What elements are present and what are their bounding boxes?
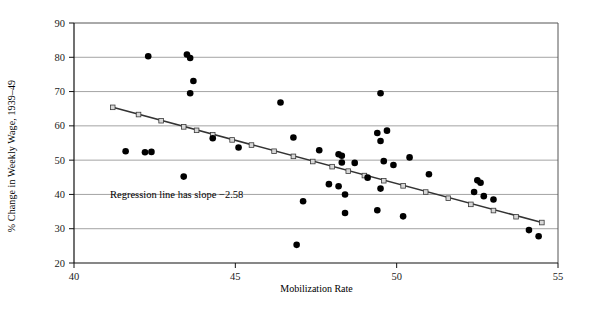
data-point bbox=[342, 191, 349, 198]
data-point bbox=[406, 154, 413, 161]
data-point bbox=[351, 160, 358, 167]
data-point bbox=[364, 174, 371, 181]
data-point bbox=[145, 53, 152, 60]
regression-line-marker bbox=[381, 178, 386, 183]
regression-line-marker bbox=[230, 138, 235, 143]
y-tick-label: 80 bbox=[55, 52, 66, 63]
data-point bbox=[380, 158, 387, 165]
data-point bbox=[187, 55, 194, 62]
regression-line-marker bbox=[110, 105, 115, 110]
regression-line-marker bbox=[491, 208, 496, 213]
x-tick-label: 40 bbox=[69, 271, 80, 282]
x-axis-label-text: Mobilization Rate bbox=[280, 283, 353, 294]
data-point bbox=[335, 183, 342, 190]
data-point bbox=[426, 171, 433, 178]
data-point bbox=[148, 149, 155, 156]
regression-line-marker bbox=[330, 164, 335, 169]
data-point bbox=[209, 135, 216, 142]
regression-line-marker bbox=[540, 220, 545, 225]
x-axis-ticks: 40455055 bbox=[69, 263, 564, 282]
x-tick-label: 45 bbox=[230, 271, 241, 282]
data-point bbox=[290, 134, 297, 141]
data-point bbox=[316, 147, 323, 154]
data-point bbox=[377, 90, 384, 97]
x-tick-label: 55 bbox=[553, 271, 564, 282]
x-tick-label: 50 bbox=[391, 271, 402, 282]
data-point bbox=[326, 181, 333, 188]
data-point bbox=[190, 78, 197, 85]
data-point bbox=[477, 179, 484, 186]
data-point bbox=[374, 130, 381, 137]
data-point bbox=[300, 198, 307, 205]
data-point bbox=[490, 196, 497, 203]
data-point bbox=[377, 185, 384, 192]
regression-line-marker bbox=[272, 149, 277, 154]
data-point bbox=[180, 173, 187, 180]
regression-line-marker bbox=[249, 143, 254, 148]
data-point bbox=[187, 90, 194, 97]
y-tick-label: 30 bbox=[55, 223, 66, 234]
data-point bbox=[384, 127, 391, 134]
regression-line-marker bbox=[423, 190, 428, 195]
data-point bbox=[142, 149, 149, 156]
y-tick-label: 90 bbox=[55, 18, 66, 29]
regression-line-marker bbox=[310, 159, 315, 164]
x-axis-label: Mobilization Rate bbox=[74, 283, 559, 294]
regression-line-marker bbox=[446, 196, 451, 201]
regression-line-marker bbox=[136, 112, 141, 117]
data-point bbox=[480, 193, 487, 200]
scatter-plot: 2030405060708090 40455055 bbox=[0, 0, 589, 312]
regression-line-marker bbox=[291, 154, 296, 159]
y-tick-label: 40 bbox=[55, 189, 66, 200]
data-point bbox=[374, 207, 381, 214]
regression-slope-annotation: Regression line has slope −2.58 bbox=[110, 189, 243, 200]
regression-line-marker bbox=[159, 118, 164, 123]
data-point bbox=[122, 148, 129, 155]
regression-line-marker bbox=[194, 128, 199, 133]
data-point bbox=[339, 152, 346, 159]
data-point bbox=[235, 144, 242, 151]
data-point bbox=[400, 213, 407, 220]
regression-line-marker bbox=[346, 169, 351, 174]
y-tick-label: 70 bbox=[55, 86, 66, 97]
regression-slope-annotation-text: Regression line has slope −2.58 bbox=[110, 189, 243, 200]
regression-line-marker bbox=[401, 184, 406, 189]
data-point bbox=[390, 162, 397, 169]
data-point bbox=[471, 189, 478, 196]
y-tick-label: 60 bbox=[55, 120, 66, 131]
y-tick-label: 20 bbox=[55, 258, 66, 269]
figure-container: 2030405060708090 40455055 % Change in We… bbox=[0, 0, 589, 312]
data-point bbox=[293, 242, 300, 249]
regression-line-marker bbox=[514, 214, 519, 219]
data-point bbox=[277, 99, 284, 106]
data-point bbox=[339, 159, 346, 166]
data-point bbox=[535, 233, 542, 240]
data-point bbox=[377, 138, 384, 145]
y-tick-label: 50 bbox=[55, 155, 66, 166]
y-axis-ticks: 2030405060708090 bbox=[55, 18, 75, 269]
data-point bbox=[526, 227, 533, 234]
data-point bbox=[342, 210, 349, 217]
regression-line-marker bbox=[181, 125, 186, 130]
regression-line-marker bbox=[469, 202, 474, 207]
